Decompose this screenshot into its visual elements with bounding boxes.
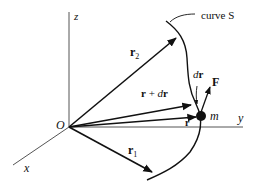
r1-label: r1 <box>128 143 137 159</box>
x-axis <box>13 127 69 165</box>
force-label: F <box>212 75 219 89</box>
curve-s-label: curve S <box>201 9 234 21</box>
y-axis-label: y <box>237 111 244 125</box>
r-label: r <box>185 117 190 128</box>
mass-point <box>196 111 206 121</box>
z-axis-label: z <box>73 10 79 22</box>
r-vector <box>69 117 196 127</box>
x-axis-label: x <box>23 161 30 175</box>
r2-label: r2 <box>130 45 139 61</box>
curve-s-leader <box>170 14 195 22</box>
dr-arrow <box>196 86 197 104</box>
mass-label: m <box>210 109 219 123</box>
r-plus-dr-label: r + dr <box>141 87 168 99</box>
curve-label-text: curve S <box>201 9 234 21</box>
force-vector <box>200 87 210 115</box>
r-plus-dr-vector <box>69 105 191 127</box>
origin-label: O <box>56 118 65 132</box>
dr-label: dr <box>193 68 204 80</box>
r1-vector <box>69 127 152 172</box>
r2-vector <box>69 38 176 127</box>
curve-s <box>147 21 200 180</box>
work-along-curve-diagram: z y x O curve S r2 r + dr r r1 dr F m <box>0 0 260 189</box>
